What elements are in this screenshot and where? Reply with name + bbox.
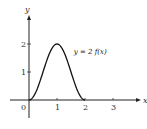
y-axis-label: y <box>24 5 30 14</box>
y-axis-arrow <box>27 15 31 20</box>
chart: xy012312y = 2 f(x) <box>0 0 147 129</box>
labels: xy012312y = 2 f(x) <box>21 5 147 112</box>
x-tick-label: 2 <box>83 103 88 112</box>
origin-label: 0 <box>21 103 26 112</box>
y-tick-label: 1 <box>21 68 26 77</box>
x-tick-label: 1 <box>55 103 60 112</box>
y-tick-label: 2 <box>21 40 26 49</box>
curve-annotation: y = 2 f(x) <box>73 48 107 56</box>
x-axis-label: x <box>143 96 147 105</box>
axes <box>10 15 141 118</box>
x-tick-label: 3 <box>111 103 116 112</box>
x-axis-arrow <box>136 98 141 102</box>
